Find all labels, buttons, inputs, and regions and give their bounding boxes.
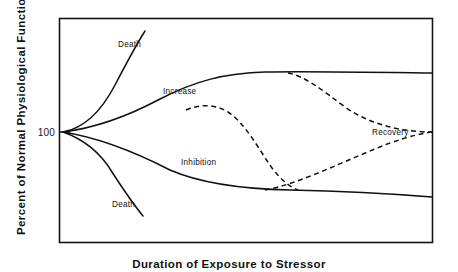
curve-recovery-early-branch <box>186 106 298 190</box>
label-death-lower: Death <box>112 200 135 209</box>
label-inhibition: Inhibition <box>181 158 216 167</box>
figure-page: Percent of Normal Physiological Function… <box>0 0 458 272</box>
label-death-upper: Death <box>118 40 141 49</box>
curve-increase <box>63 72 432 132</box>
label-increase: Increase <box>163 87 197 96</box>
y-tick-label-100: 100 <box>38 127 56 138</box>
y-axis-title: Percent of Normal Physiological Function <box>15 0 27 235</box>
curve-inhibition <box>63 132 432 197</box>
curve-recovery-from-increase <box>288 73 432 132</box>
stress-response-figure: Percent of Normal Physiological Function… <box>0 0 458 272</box>
curve-recovery-from-inhibition <box>265 132 432 190</box>
x-axis-title: Duration of Exposure to Stressor <box>132 258 326 270</box>
label-recovery: Recovery <box>372 128 409 137</box>
